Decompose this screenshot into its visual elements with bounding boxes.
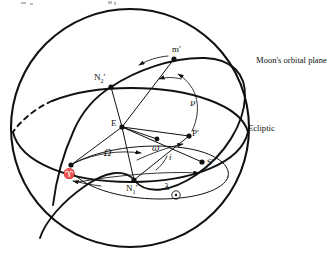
point-earth-center (119, 124, 124, 129)
label-ascending-node-prime: ′ (136, 183, 138, 193)
label-ascending-node: N1′ (126, 183, 138, 195)
line-E-to-aries (71, 127, 122, 165)
ecliptic-hidden-arc (13, 101, 52, 132)
label-argument-of-perigee: ω (152, 143, 160, 153)
point-perigee-arc-point (155, 137, 160, 142)
point-vernal-equinox (68, 162, 73, 167)
arrow-apsidal-motion (159, 78, 181, 80)
orbit-inner-ring-lower (71, 170, 228, 199)
label-moon: m′ (172, 44, 181, 54)
celestial-sphere-figure: N2′ N1′ E m′ P′ S′ ♈ Ω ω ν i λ Moon's or… (0, 0, 328, 256)
point-moon (171, 56, 176, 61)
ecliptic-rear-arc (52, 88, 248, 132)
label-earth-center: E (111, 118, 117, 128)
label-perigee: P′ (192, 128, 199, 138)
label-sun-direction: S′ (207, 157, 214, 167)
line-E-to-arcpoint (122, 127, 157, 139)
label-descending-node-prime: ′ (104, 72, 106, 82)
label-moon-letter: m (172, 44, 179, 54)
point-sun-direction (199, 159, 204, 164)
label-ecliptic-plane: Ecliptic (248, 123, 275, 133)
label-vernal-equinox: ♈ (63, 167, 75, 180)
point-descending-node (108, 84, 113, 89)
label-solar-longitude: λ (163, 182, 170, 192)
label-longitude-of-node: Ω (103, 148, 112, 158)
orbit-inner-ring-upper (71, 146, 228, 177)
label-moon-prime: ′ (179, 44, 181, 54)
diagram-canvas: N2′ N1′ E m′ P′ S′ ♈ Ω ω ν i λ Moon's or… (0, 0, 328, 256)
line-E-to-N1 (122, 127, 134, 180)
label-inclination: i (169, 152, 172, 162)
label-true-anomaly: ν (190, 98, 196, 108)
label-sun-prime: ′ (212, 157, 214, 167)
label-descending-node: N2′ (94, 72, 106, 84)
point-perigee (186, 133, 191, 138)
label-earth-letter: E (111, 118, 117, 128)
label-moon-orbital-plane: Moon's orbital plane (256, 55, 327, 65)
scan-artifacts (21, 1, 116, 5)
moon-orbit-front-arc (111, 58, 245, 190)
label-perigee-prime: ′ (197, 128, 199, 138)
sun-icon-center (175, 194, 177, 196)
point-ascending-node (131, 177, 136, 182)
